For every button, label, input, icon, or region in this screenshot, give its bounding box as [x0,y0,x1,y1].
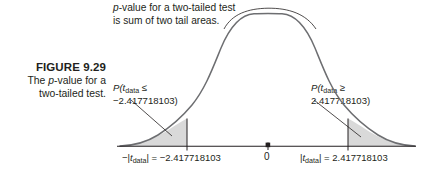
left-label-leader-line [131,100,172,136]
figure-container: FIGURE 9.29 The p-value for a two-tailed… [0,0,422,176]
center-point-marker [266,143,271,148]
right-tail-shaded-region [348,119,415,147]
t-distribution-curve [120,14,415,147]
distribution-chart [0,0,422,176]
left-tail-shaded-region [120,119,187,147]
right-label-leader-line [314,100,361,137]
